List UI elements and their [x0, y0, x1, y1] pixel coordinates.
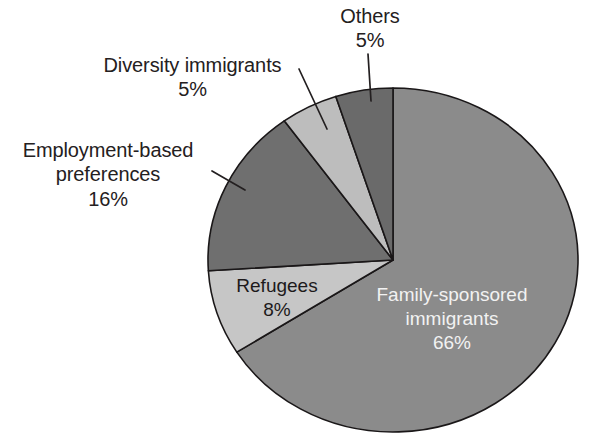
slice-label-others-name: Others	[340, 5, 399, 27]
slice-label-refugees: Refugees 8%	[212, 274, 342, 322]
slice-label-employment-name-line2: preferences	[8, 162, 208, 186]
slice-label-employment-based: Employment-based preferences 16%	[8, 138, 208, 211]
slice-label-diversity-name: Diversity immigrants	[103, 54, 281, 76]
slice-label-family-name-line2: immigrants	[352, 307, 552, 331]
slice-label-diversity-percent: 5%	[85, 77, 300, 101]
slice-label-family-sponsored: Family-sponsored immigrants 66%	[352, 283, 552, 354]
slice-label-employment-percent: 16%	[8, 187, 208, 211]
pie-chart: Others 5% Diversity immigrants 5% Employ…	[0, 0, 597, 444]
slice-label-family-name-line1: Family-sponsored	[377, 284, 528, 305]
slice-label-refugees-percent: 8%	[212, 298, 342, 322]
pie-slices-group	[208, 88, 578, 432]
slice-label-family-percent: 66%	[352, 331, 552, 355]
slice-label-others-percent: 5%	[310, 28, 430, 52]
slice-label-refugees-name: Refugees	[236, 275, 317, 296]
slice-label-diversity-immigrants: Diversity immigrants 5%	[85, 53, 300, 102]
slice-label-employment-name-line1: Employment-based	[23, 139, 194, 161]
slice-label-others: Others 5%	[310, 4, 430, 53]
